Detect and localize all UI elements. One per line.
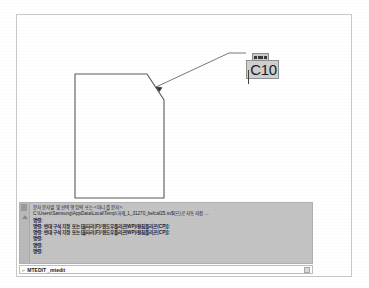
text-caret xyxy=(248,70,249,84)
drawing-geometry xyxy=(17,15,351,200)
command-prompt-icon: ›- xyxy=(22,267,25,273)
command-history[interactable]: 문자 문자열 및 선택 행 입력 또는 <아니 를 문자>: C:\Users\… xyxy=(19,202,313,264)
scrollbar-thumb[interactable] xyxy=(21,204,27,211)
document-frame: C10 문자 문자열 및 선택 행 입력 또는 <아니 를 문자>: C:\Us… xyxy=(16,14,352,277)
chamfered-rectangle-shape xyxy=(75,74,164,198)
toolbar-right-arrow-icon[interactable] xyxy=(264,56,267,59)
scrollbar-down-arrow-icon[interactable] xyxy=(22,215,28,219)
drawing-canvas[interactable]: C10 xyxy=(17,15,351,200)
command-input-value[interactable]: MTEDIT _mtedit xyxy=(27,267,304,273)
command-input-row[interactable]: ›- MTEDIT _mtedit xyxy=(19,265,313,274)
toolbar-left-arrow-icon[interactable] xyxy=(254,56,257,59)
screenshot-page: C10 문자 문자열 및 선택 행 입력 또는 <아니 를 문자>: C:\Us… xyxy=(0,0,369,288)
command-history-line: 명령: xyxy=(33,249,310,255)
mtext-value: C10 xyxy=(248,62,277,77)
command-history-scrollbar[interactable] xyxy=(20,203,30,263)
command-history-lines: 문자 문자열 및 선택 행 입력 또는 <아니 를 문자>: C:\Users\… xyxy=(30,203,312,263)
toolbar-handle-icon[interactable] xyxy=(258,56,263,59)
mtext-edit-box[interactable]: C10 xyxy=(246,60,279,79)
command-window: 문자 문자열 및 선택 행 입력 또는 <아니 를 문자>: C:\Users\… xyxy=(17,201,351,277)
mtext-editor-group[interactable]: C10 xyxy=(246,53,282,81)
leader-line xyxy=(156,53,246,87)
gear-icon[interactable] xyxy=(304,267,310,273)
